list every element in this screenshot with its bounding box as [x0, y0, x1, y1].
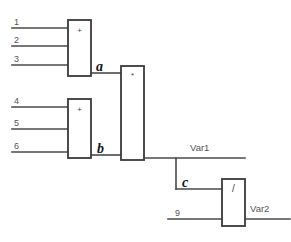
input-label-4: 4 — [14, 96, 19, 106]
input-label-1: 1 — [14, 17, 19, 27]
operator-symbol-plus-a: + — [77, 26, 82, 35]
input-label-6: 6 — [14, 141, 19, 151]
signal-label-c: c — [182, 175, 189, 190]
input-label-9: 9 — [175, 208, 180, 218]
operator-symbol-plus-b: + — [77, 105, 82, 114]
diagram-drawing: + + * / 1 2 3 4 5 6 9 a b c Var1 Var2 — [0, 0, 291, 242]
input-label-5: 5 — [14, 118, 19, 128]
operator-symbol-multiply: * — [131, 71, 134, 80]
output-label-var1: Var1 — [190, 142, 209, 153]
block-diagram-canvas: + + * / 1 2 3 4 5 6 9 a b c Var1 Var2 — [0, 0, 291, 242]
signal-label-a: a — [96, 59, 103, 74]
output-label-var2: Var2 — [250, 203, 269, 214]
input-label-2: 2 — [14, 35, 19, 45]
signal-label-b: b — [97, 141, 104, 156]
operator-symbol-divide: / — [232, 183, 235, 194]
input-label-3: 3 — [14, 54, 19, 64]
block-multiply[interactable] — [121, 66, 144, 160]
